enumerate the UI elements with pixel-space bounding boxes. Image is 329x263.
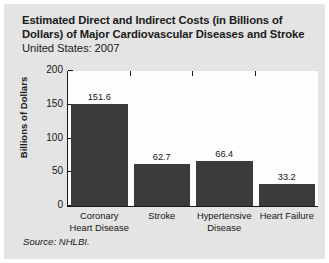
y-tick-label: 150	[46, 98, 63, 109]
y-tick-label: 100	[46, 132, 63, 143]
source-note: Source: NHLBI.	[23, 236, 90, 247]
plot-area: 200150100500 151.662.766.433.2 CoronaryH…	[67, 71, 318, 207]
y-tick-label: 200	[46, 64, 63, 75]
x-tick	[255, 71, 256, 76]
category-label: Stroke	[131, 210, 194, 222]
x-tick	[130, 71, 131, 76]
category-label: CoronaryHeart Disease	[68, 210, 131, 233]
category-label-line: Coronary	[68, 210, 131, 222]
y-axis-title: Billions of Dollars	[18, 68, 29, 168]
chart-figure: Estimated Direct and Indirect Costs (in …	[4, 4, 325, 259]
category-label-line: Hypertensive	[193, 210, 256, 222]
bar: 151.6	[71, 104, 128, 206]
category-label: Heart Failure	[256, 210, 319, 222]
category-label-line: Stroke	[131, 210, 194, 222]
bar-value-label: 151.6	[88, 92, 111, 102]
x-tick	[192, 71, 193, 76]
y-tick: 200	[68, 70, 73, 71]
category-label-line: Heart Disease	[68, 222, 131, 234]
bar: 62.7	[134, 164, 191, 206]
bar: 33.2	[259, 184, 316, 206]
chart-title-line-1: Estimated Direct and Indirect Costs (in …	[22, 13, 312, 27]
chart-subtitle: United States: 2007	[22, 41, 312, 56]
y-tick-label: 50	[52, 165, 63, 176]
bar-value-label: 62.7	[153, 152, 171, 162]
bar-value-label: 33.2	[278, 172, 296, 182]
category-label: HypertensiveDisease	[193, 210, 256, 233]
y-tick-label: 0	[57, 199, 63, 210]
title-block: Estimated Direct and Indirect Costs (in …	[22, 13, 312, 56]
category-label-line: Heart Failure	[256, 210, 319, 222]
bar: 66.4	[196, 161, 253, 206]
chart-title-line-2: Dollars) of Major Cardiovascular Disease…	[22, 27, 312, 41]
bar-value-label: 66.4	[215, 149, 233, 159]
category-label-line: Disease	[193, 222, 256, 234]
